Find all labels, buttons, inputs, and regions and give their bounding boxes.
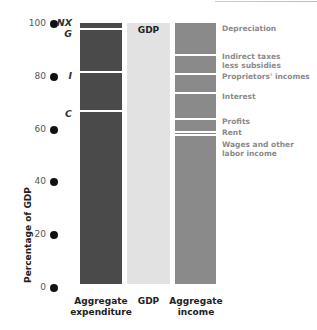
label-nx: NX [52,17,72,28]
label-proprietors-incomes: Proprietors' incomes [222,73,310,82]
tick-dot [50,284,58,292]
bar-aggregate-expenditure [80,23,122,284]
divider-interest [175,118,216,120]
tick-dot [50,126,58,134]
divider-depreciation [175,54,216,56]
divider-nx-g [80,28,122,30]
label-rent: Rent [222,129,242,138]
tick-dot [50,178,58,186]
x-label-aggregate-expenditure: Aggregate expenditure [68,296,134,318]
tick-dot [50,231,58,239]
divider-rent [175,134,216,136]
divider-g-i [80,71,122,73]
divider-i-c [80,110,122,112]
y-tick-80: 80 [0,77,60,89]
gdp-inner-label: GDP [127,25,170,35]
label-g: G [52,28,72,39]
divider-indirect-taxes [175,73,216,75]
label-profits: Profits [222,118,250,127]
divider-proprietors [175,92,216,94]
label-wages-2: labor income [222,150,277,159]
x-label-gdp: GDP [127,296,170,307]
x-label-aggregate-income: Aggregate income [166,296,226,318]
y-tick-100: 100 [0,24,60,36]
bar-aggregate-income [175,23,216,284]
top-rule [215,1,317,2]
y-axis-label: Percentage of GDP [23,165,33,305]
label-interest: Interest [222,93,256,102]
label-depreciation: Depreciation [222,25,276,34]
divider-profits [175,131,216,133]
label-i: I [52,70,72,81]
label-indirect-taxes-2: less subsidies [222,62,281,71]
y-tick-60: 60 [0,130,60,142]
label-c: C [52,108,72,119]
bar-gdp [127,23,170,284]
